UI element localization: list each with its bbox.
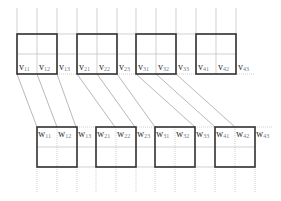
- label-v41: v41: [198, 62, 209, 72]
- connector-line: [156, 74, 215, 127]
- label-v31: v31: [138, 62, 149, 72]
- label-w11: w11: [38, 129, 51, 139]
- connector-line: [117, 74, 155, 127]
- label-v43: v43: [238, 62, 249, 72]
- connector-line: [176, 74, 235, 127]
- label-v11: v11: [19, 62, 30, 72]
- label-w13: w13: [78, 129, 91, 139]
- mapping-diagram: [0, 0, 281, 201]
- label-w43: w43: [256, 129, 269, 139]
- label-v23: v23: [119, 62, 130, 72]
- label-v33: v33: [178, 62, 189, 72]
- label-w12: w12: [58, 129, 71, 139]
- label-v42: v42: [218, 62, 229, 72]
- label-v12: v12: [39, 62, 50, 72]
- label-w31: w31: [156, 129, 169, 139]
- connector-line: [97, 74, 135, 127]
- label-w42: w42: [236, 129, 249, 139]
- label-v21: v21: [79, 62, 90, 72]
- connector-line: [77, 74, 115, 127]
- label-w32: w32: [176, 129, 189, 139]
- connector-line: [37, 74, 57, 127]
- connector-line: [136, 74, 195, 127]
- label-v22: v22: [99, 62, 110, 72]
- label-w22: w22: [117, 129, 130, 139]
- label-w21: w21: [97, 129, 110, 139]
- label-w41: w41: [216, 129, 229, 139]
- label-v32: v32: [158, 62, 169, 72]
- label-w23: w23: [137, 129, 150, 139]
- connector-line: [17, 74, 37, 127]
- label-v13: v13: [59, 62, 70, 72]
- connector-line: [57, 74, 76, 127]
- label-w33: w33: [196, 129, 209, 139]
